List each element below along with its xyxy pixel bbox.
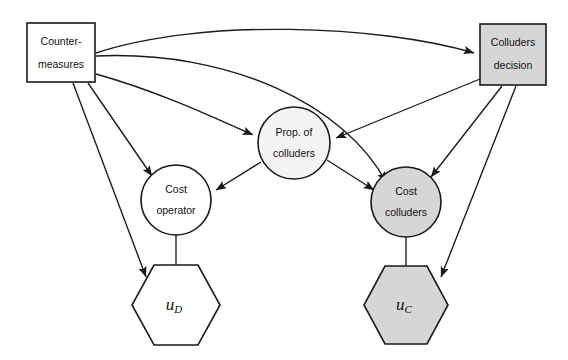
colluders-decision-label-line2: decision xyxy=(494,59,533,71)
edge-countermeasures-to-colluders-decision xyxy=(96,29,474,53)
edge-countermeasures-to-cost-colluders xyxy=(96,56,386,182)
node-countermeasures[interactable]: Counter- measures xyxy=(27,23,95,82)
edge-countermeasures-to-cost-operator xyxy=(88,83,152,176)
cost-colluders-label-line1: Cost xyxy=(395,185,417,197)
prop-of-colluders-circle xyxy=(258,107,330,179)
node-colluders-decision[interactable]: Colluders decision xyxy=(480,24,546,85)
prop-of-colluders-label-line2: colluders xyxy=(273,147,315,159)
edge-prop-of-colluders-to-cost-operator xyxy=(216,162,261,190)
node-prop-of-colluders[interactable]: Prop. of colluders xyxy=(258,107,330,179)
node-cost-operator[interactable]: Cost operator xyxy=(141,165,211,235)
influence-diagram-figure: Counter- measures Colluders decision Pro… xyxy=(0,0,568,360)
edge-prop-of-colluders-to-cost-colluders xyxy=(327,160,374,190)
edge-colluders-decision-to-cost-colluders xyxy=(431,86,502,177)
countermeasures-label-line1: Counter- xyxy=(41,35,82,47)
u-d-base: u xyxy=(166,295,175,314)
cost-colluders-label-line2: colluders xyxy=(385,206,427,218)
cost-operator-label-line2: operator xyxy=(156,204,196,216)
u-c-subscript: C xyxy=(405,303,413,315)
node-cost-colluders[interactable]: Cost colluders xyxy=(371,167,441,237)
u-c-base: u xyxy=(396,295,405,314)
prop-of-colluders-label-line1: Prop. of xyxy=(276,126,313,138)
cost-operator-circle xyxy=(141,165,211,235)
colluders-decision-label-line1: Colluders xyxy=(491,36,535,48)
cost-colluders-circle xyxy=(371,167,441,237)
countermeasures-label-line2: measures xyxy=(38,58,84,70)
edge-countermeasures-to-u-d xyxy=(73,83,146,277)
node-u-d[interactable]: uD xyxy=(132,265,220,345)
node-layer: Counter- measures Colluders decision Pro… xyxy=(27,23,546,345)
edge-countermeasures-to-prop-of-colluders xyxy=(96,74,253,135)
u-d-subscript: D xyxy=(173,303,182,315)
edge-colluders-decision-to-u-c xyxy=(441,86,516,277)
cost-operator-label-line1: Cost xyxy=(165,183,187,195)
node-u-c[interactable]: uC xyxy=(364,266,448,344)
colluders-decision-rect xyxy=(480,24,546,85)
countermeasures-rect xyxy=(27,23,95,82)
diagram-canvas: Counter- measures Colluders decision Pro… xyxy=(0,0,568,360)
edge-colluders-decision-to-prop-of-colluders xyxy=(336,79,480,138)
